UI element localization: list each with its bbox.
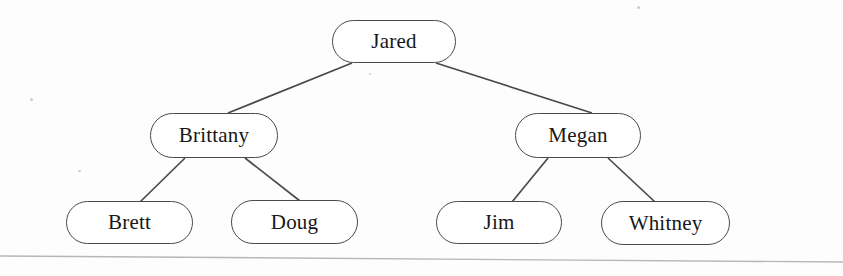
- tree-diagram-canvas: Jared Brittany Megan Brett Doug Jim Whit…: [0, 0, 843, 276]
- tree-node-label: Brittany: [179, 125, 249, 146]
- tree-node-label: Doug: [271, 211, 318, 232]
- tree-node-megan[interactable]: Megan: [515, 113, 641, 158]
- scan-speck: [369, 73, 371, 75]
- scan-speck: [78, 170, 81, 172]
- tree-edge-jared-megan: [436, 63, 592, 113]
- tree-node-label: Whitney: [629, 212, 703, 233]
- tree-node-jared[interactable]: Jared: [332, 20, 456, 63]
- page-edge-scan-line: [0, 256, 843, 262]
- tree-edge-megan-jim: [512, 158, 548, 202]
- tree-edge-brittany-brett: [140, 158, 185, 202]
- tree-node-whitney[interactable]: Whitney: [601, 201, 730, 245]
- tree-node-label: Jared: [371, 31, 416, 52]
- tree-node-label: Jim: [484, 212, 515, 233]
- scan-speck: [637, 6, 640, 9]
- scan-speck: [30, 98, 33, 101]
- tree-node-brittany[interactable]: Brittany: [150, 113, 278, 158]
- tree-node-jim[interactable]: Jim: [436, 201, 562, 244]
- tree-node-label: Megan: [548, 125, 607, 146]
- tree-edge-jared-brittany: [228, 63, 352, 113]
- tree-edge-megan-whitney: [608, 158, 655, 202]
- tree-node-brett[interactable]: Brett: [66, 201, 193, 244]
- tree-node-doug[interactable]: Doug: [231, 200, 358, 244]
- tree-edge-brittany-doug: [245, 158, 300, 201]
- tree-node-label: Brett: [108, 212, 151, 233]
